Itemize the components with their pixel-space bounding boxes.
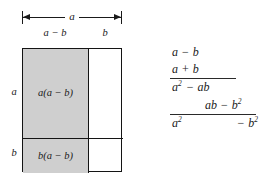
multiplicand-operator: − [182, 45, 189, 59]
cell-top-right [89, 49, 123, 139]
partial-one-operator: − [187, 80, 194, 94]
cell-bottom-left: b(a − b) [23, 139, 89, 173]
partial-two-operator: − [221, 98, 228, 112]
partial-product-one: a2−ab [172, 81, 210, 93]
figure-root: a a − b b a b a(a − b) b(a − b) [0, 0, 268, 179]
result-left-group: a2 [172, 117, 182, 129]
width-dimension-arrow: a [22, 11, 122, 24]
long-multiplication: a−b a+b a2−ab ab−b2 a2 −b2 [160, 44, 264, 140]
cell-bottom-right [89, 139, 123, 173]
segment-label-b: b [88, 28, 122, 39]
partial-one-term: ab [198, 80, 210, 94]
cell-bottom-left-label: b(a − b) [38, 151, 73, 162]
side-label-b: b [7, 148, 21, 159]
dimension-label-container: a [22, 10, 122, 22]
multiplier-line: a+b [172, 63, 199, 75]
area-model-diagram: a a − b b a b a(a − b) b(a − b) [0, 0, 146, 179]
multiplier-term-one: a [172, 62, 178, 76]
partial-one-exponent: 2 [178, 79, 182, 88]
result-right-group: −b2 [238, 117, 259, 129]
partial-two-exponent: 2 [238, 97, 242, 106]
partial-product-two: ab−b2 [205, 99, 242, 111]
multiplicand-term-one: a [172, 45, 178, 59]
side-label-a: a [7, 87, 21, 98]
result-operator: − [238, 116, 245, 130]
cell-top-left: a(a − b) [23, 49, 89, 139]
multiplicand-line: a−b [172, 46, 199, 58]
cell-top-left-label: a(a − b) [38, 88, 73, 99]
segment-label-a-minus-b: a − b [22, 28, 88, 39]
multiplier-operator: + [182, 62, 189, 76]
multiplication-rule-bottom [170, 114, 256, 115]
dimension-label-a: a [65, 10, 79, 22]
partial-two-term: ab [205, 98, 217, 112]
area-rectangle: a(a − b) b(a − b) [22, 48, 122, 172]
multiplier-term-two: b [193, 62, 199, 76]
result-right-exponent: 2 [254, 115, 258, 124]
result-left-exponent: 2 [178, 115, 182, 124]
multiplicand-term-two: b [193, 45, 199, 59]
